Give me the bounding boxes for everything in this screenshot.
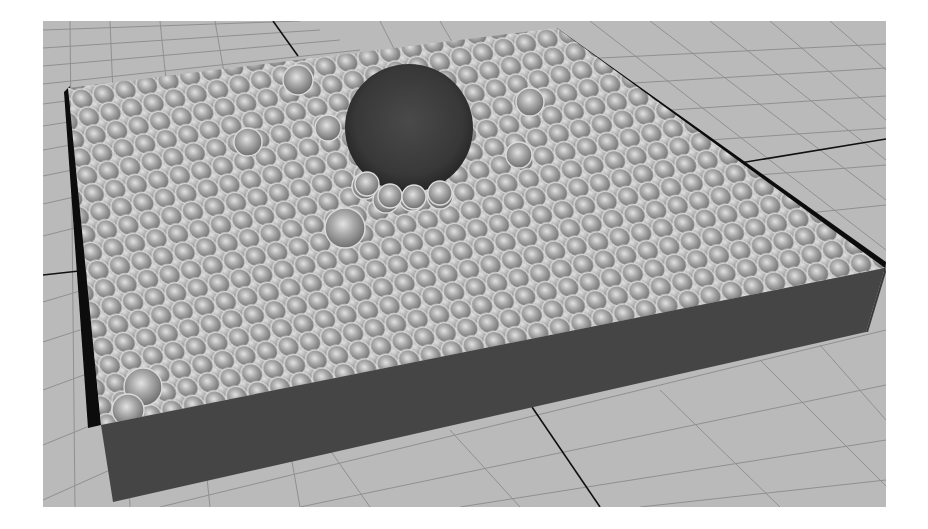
render-viewport bbox=[0, 0, 928, 529]
scene-render bbox=[0, 0, 928, 529]
